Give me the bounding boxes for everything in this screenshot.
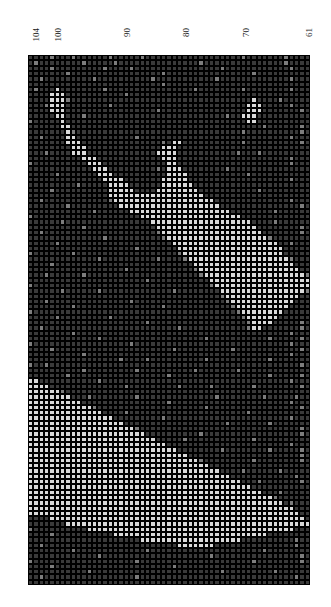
pattern-grid-canvas[interactable] (28, 55, 310, 585)
axis-top: 10410090807061 (0, 0, 331, 55)
pattern-chart-page: LEOPARD PRINT PILLOW 10410090807061 (0, 0, 331, 607)
axis-tick-label: 100 (52, 28, 64, 56)
axis-tick-label: 104 (30, 28, 42, 56)
axis-tick-label: 80 (180, 28, 192, 56)
axis-tick-label: 70 (240, 28, 252, 56)
pattern-grid[interactable] (28, 55, 310, 585)
axis-tick-label: 61 (303, 28, 315, 56)
axis-tick-label: 90 (121, 28, 133, 56)
